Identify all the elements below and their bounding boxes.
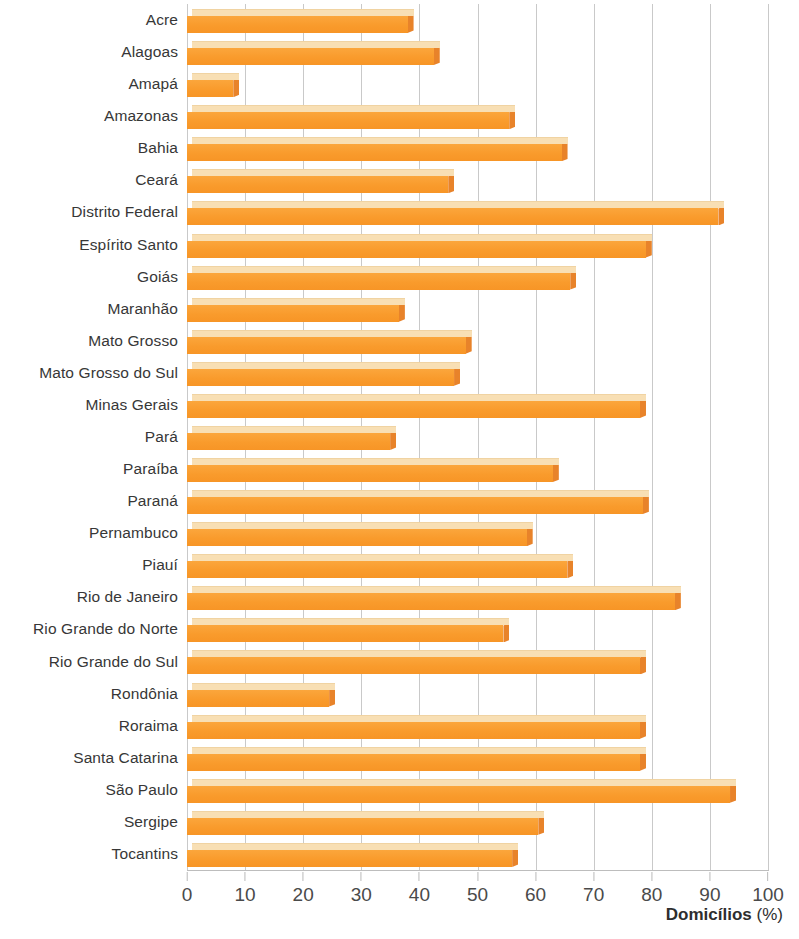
bar-row: Rondônia (187, 678, 768, 710)
bar-front-face (187, 176, 448, 193)
bar-top-face (192, 266, 576, 273)
x-axis-title-unit: (%) (757, 905, 783, 924)
bar-row: Minas Gerais (187, 389, 768, 421)
bar-top-face (192, 73, 239, 80)
bar-front-face (187, 593, 675, 610)
bar-front-face (187, 529, 527, 546)
bar (187, 73, 239, 97)
x-tick-label-90: 90 (699, 872, 720, 906)
bar-top-face (192, 394, 646, 401)
bar-top-face (192, 426, 396, 433)
bar-top-face (192, 201, 724, 208)
bar-end-cap (640, 657, 646, 674)
bar (187, 169, 454, 193)
category-label: Alagoas (121, 43, 178, 61)
bar (187, 650, 646, 674)
x-tick-label-30: 30 (351, 872, 372, 906)
category-label: Mato Grosso (88, 332, 178, 350)
bar-front-face (187, 80, 233, 97)
bar-top-face (192, 650, 646, 657)
bar-top-face (192, 9, 414, 16)
bar-end-cap (329, 690, 335, 707)
tick-mark (303, 872, 304, 881)
bar (187, 522, 533, 546)
bar-end-cap (640, 401, 646, 418)
bar-end-cap (718, 208, 724, 225)
bar-end-cap (434, 48, 440, 65)
x-axis-title: Domicílios (%) (666, 905, 783, 925)
x-tick-label-10: 10 (235, 872, 256, 906)
bar-row: Ceará (187, 164, 768, 196)
bar (187, 843, 518, 867)
bar-front-face (187, 369, 454, 386)
bar (187, 618, 509, 642)
bar-row: Amapá (187, 68, 768, 100)
bar-front-face (187, 144, 562, 161)
bar-row: Rio de Janeiro (187, 581, 768, 613)
bar-end-cap (567, 561, 573, 578)
category-label: Sergipe (124, 813, 178, 831)
bar-end-cap (408, 16, 414, 33)
bar-end-cap (509, 112, 515, 129)
category-label: Tocantins (112, 845, 178, 863)
bar (187, 747, 646, 771)
bar-row: Mato Grosso (187, 325, 768, 357)
bar-end-cap (643, 497, 649, 514)
bar (187, 9, 414, 33)
bar (187, 554, 573, 578)
bar-row: Rio Grande do Sul (187, 645, 768, 677)
bar-top-face (192, 554, 573, 561)
bar-front-face (187, 401, 640, 418)
category-label: Pará (145, 428, 178, 446)
bar-row: Amazonas (187, 100, 768, 132)
category-label: Rio Grande do Sul (49, 653, 178, 671)
bar-front-face (187, 465, 553, 482)
tick-mark (651, 872, 652, 881)
category-label: Acre (146, 11, 178, 29)
tick-mark (419, 872, 420, 881)
bar-front-face (187, 625, 503, 642)
category-label: São Paulo (106, 781, 178, 799)
category-label: Maranhão (107, 300, 178, 318)
bar-chart: AcreAlagoasAmapáAmazonasBahiaCearáDistri… (0, 0, 799, 939)
bar (187, 458, 559, 482)
category-label: Santa Catarina (73, 749, 178, 767)
bar-row: Bahia (187, 132, 768, 164)
bar-row: Mato Grosso do Sul (187, 357, 768, 389)
x-tick-label-20: 20 (293, 872, 314, 906)
tick-mark (361, 872, 362, 881)
bar-top-face (192, 811, 544, 818)
bar-end-cap (570, 273, 576, 290)
category-label: Ceará (135, 171, 178, 189)
category-label: Paraíba (123, 460, 178, 478)
category-label: Espírito Santo (79, 236, 178, 254)
bar-front-face (187, 722, 640, 739)
bar-front-face (187, 818, 538, 835)
bar-front-face (187, 112, 509, 129)
x-tick-label-60: 60 (525, 872, 546, 906)
bar-top-face (192, 683, 335, 690)
category-label: Rio de Janeiro (77, 588, 178, 606)
bar-top-face (192, 458, 559, 465)
bar-top-face (192, 779, 736, 786)
bar-front-face (187, 657, 640, 674)
bar-row: Rio Grande do Norte (187, 613, 768, 645)
bar-row: Piauí (187, 549, 768, 581)
bar (187, 234, 652, 258)
category-label: Piauí (142, 556, 178, 574)
category-label: Mato Grosso do Sul (39, 364, 178, 382)
bar-top-face (192, 330, 472, 337)
bar-end-cap (730, 786, 736, 803)
bar (187, 330, 472, 354)
bar (187, 683, 335, 707)
category-label: Amazonas (104, 107, 178, 125)
bar (187, 362, 460, 386)
bar-end-cap (503, 625, 509, 642)
x-tick-label-0: 0 (182, 872, 193, 906)
bar (187, 298, 405, 322)
bar-top-face (192, 747, 646, 754)
bar-front-face (187, 305, 399, 322)
category-label: Paraná (127, 492, 178, 510)
bar (187, 201, 724, 225)
bar-front-face (187, 273, 570, 290)
